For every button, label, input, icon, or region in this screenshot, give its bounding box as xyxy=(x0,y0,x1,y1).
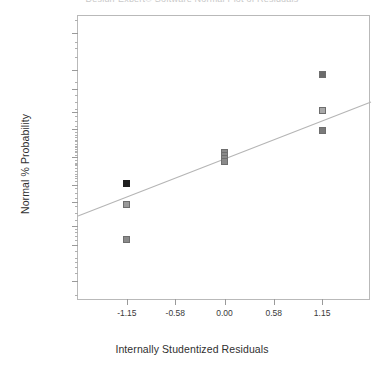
data-point-marker xyxy=(319,107,326,114)
data-point-marker xyxy=(319,127,326,134)
data-point-marker xyxy=(123,180,130,187)
plot-frame: 15102030507080909599-1.15-0.580.000.581.… xyxy=(77,15,370,300)
clipped-figure-title: Design-Expert® Software Normal Plot of R… xyxy=(0,0,384,2)
data-point-marker xyxy=(123,236,130,243)
x-tick-label: 1.15 xyxy=(300,308,344,318)
x-tick-label: -0.58 xyxy=(153,308,197,318)
data-point-marker xyxy=(319,71,326,78)
x-tick-label: -1.15 xyxy=(105,308,149,318)
x-axis-title: Internally Studentized Residuals xyxy=(0,343,384,355)
x-tick-label: 0.58 xyxy=(252,308,296,318)
plot-area: 15102030507080909599-1.15-0.580.000.581.… xyxy=(78,16,369,299)
y-axis-title: Normal % Probability xyxy=(19,64,31,264)
x-tick-label: 0.00 xyxy=(203,308,247,318)
data-point-marker xyxy=(221,158,228,165)
data-point-marker xyxy=(123,201,130,208)
normal-probability-plot-figure: Design-Expert® Software Normal Plot of R… xyxy=(0,0,384,373)
